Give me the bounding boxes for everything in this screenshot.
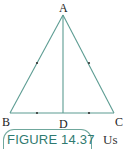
vertex-label-a: A bbox=[59, 2, 68, 14]
tick-mark-bd bbox=[36, 112, 38, 114]
tick-mark-dc bbox=[88, 112, 90, 114]
tick-mark-ac bbox=[88, 62, 90, 64]
segment-ac bbox=[63, 15, 114, 113]
figure-caption: FIGURE 14.37 bbox=[7, 133, 95, 146]
trailing-text: Us bbox=[103, 133, 117, 146]
vertex-label-c: C bbox=[115, 116, 123, 128]
tick-mark-ab bbox=[36, 62, 38, 64]
segment-ab bbox=[10, 15, 63, 113]
vertex-label-b: B bbox=[2, 116, 10, 128]
